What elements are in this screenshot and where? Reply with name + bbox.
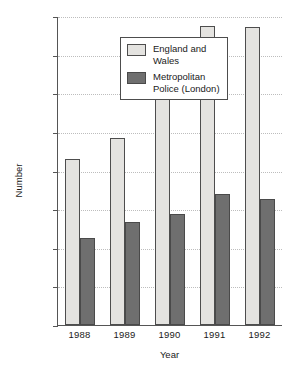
bar <box>260 199 275 325</box>
legend: England and Wales Metropolitan Police (L… <box>120 37 228 100</box>
x-axis-tick-label: 1989 <box>102 329 147 340</box>
bar-group <box>58 17 103 325</box>
bar-chart: Number 01,0002,0003,0004,0005,0006,0007,… <box>0 0 292 369</box>
legend-swatch-icon-metropolitan-police <box>127 72 146 84</box>
legend-item-england-and-wales: England and Wales <box>127 43 220 66</box>
bar <box>65 159 80 325</box>
legend-swatch-icon-england-and-wales <box>127 44 146 56</box>
y-axis-title: Number <box>13 141 24 221</box>
bar <box>155 84 170 325</box>
bar <box>170 214 185 325</box>
bar <box>215 194 230 325</box>
legend-label-metropolitan-police: Metropolitan Police (London) <box>153 71 220 94</box>
x-axis-tick-label: 1988 <box>57 329 102 340</box>
bar <box>245 27 260 325</box>
x-axis-title: Year <box>57 349 282 360</box>
x-axis-tick-label: 1990 <box>147 329 192 340</box>
x-axis-tick-label: 1991 <box>192 329 237 340</box>
legend-label-england-and-wales: England and Wales <box>153 43 206 66</box>
bar <box>125 222 140 326</box>
x-axis-tick-label: 1992 <box>237 329 282 340</box>
bar <box>80 238 95 325</box>
legend-item-metropolitan-police: Metropolitan Police (London) <box>127 71 220 94</box>
x-axis-tick-labels: 19881989199019911992 <box>57 329 282 340</box>
y-axis-tick <box>53 326 58 327</box>
plot-area: 01,0002,0003,0004,0005,0006,0007,0008,00… <box>57 17 282 326</box>
bar <box>110 138 125 325</box>
bar-group <box>237 17 282 325</box>
